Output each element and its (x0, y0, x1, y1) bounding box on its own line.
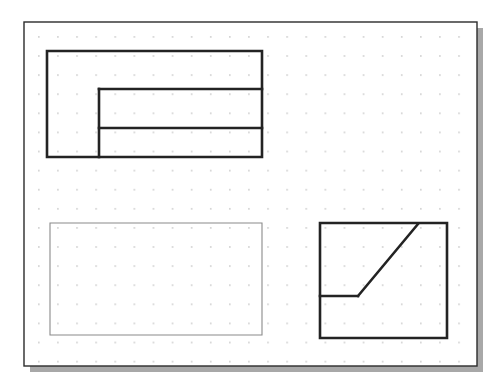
drawing-canvas (0, 0, 504, 386)
grid-dot-field (25, 23, 476, 365)
technical-drawing (0, 0, 504, 386)
